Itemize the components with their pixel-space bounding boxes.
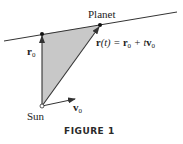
start-point-dot bbox=[40, 32, 44, 36]
sun-point bbox=[40, 104, 44, 108]
equation-label: r(t) = r0 + tv0 bbox=[96, 37, 156, 50]
v0-label: v0 bbox=[73, 101, 83, 115]
sun-label: Sun bbox=[27, 110, 45, 122]
planet-dot bbox=[98, 23, 102, 27]
r0-label: r0 bbox=[27, 45, 36, 59]
kepler-figure: Planet Sun r0 v0 r(t) = r0 + tv0 FIGURE … bbox=[0, 0, 183, 144]
planet-label: Planet bbox=[88, 8, 116, 20]
figure-caption: FIGURE 1 bbox=[64, 126, 115, 136]
